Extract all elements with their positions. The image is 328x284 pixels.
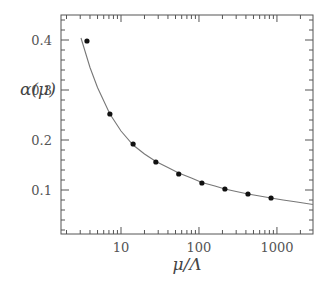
data-points: [84, 38, 273, 200]
y-tick-label: 0.4: [31, 33, 52, 48]
data-point: [176, 171, 181, 176]
data-point: [245, 191, 250, 196]
data-point: [131, 141, 136, 146]
y-tick-label: 0.2: [31, 133, 52, 148]
y-tick-labels: 0.10.20.30.4: [31, 33, 52, 198]
data-point: [84, 38, 89, 43]
x-tick-label: 100: [187, 240, 212, 255]
x-tick-label: 10: [113, 240, 130, 255]
data-point: [107, 111, 112, 116]
x-tick-labels: 101001000: [113, 240, 294, 255]
data-point: [153, 159, 158, 164]
y-tick-label: 0.1: [31, 183, 52, 198]
axis-ticks: [61, 15, 313, 234]
x-axis-title: μ/Λ: [172, 254, 201, 274]
data-point: [222, 186, 227, 191]
chart: 0.10.20.30.4 101001000 α(μ) μ/Λ: [0, 0, 328, 284]
y-axis-title: α(μ): [20, 79, 56, 99]
plot-frame: [61, 15, 313, 234]
x-tick-label: 1000: [260, 240, 293, 255]
fit-curve: [81, 38, 313, 205]
data-point: [268, 195, 273, 200]
data-point: [199, 180, 204, 185]
